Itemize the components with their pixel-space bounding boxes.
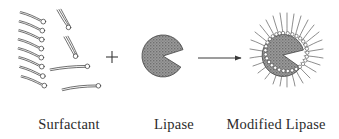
reaction-scheme-figure: Surfactant Lipase Modified Lipase	[0, 0, 339, 139]
surfactant-free-bottom	[62, 84, 101, 91]
lipase-shape	[142, 35, 183, 77]
modified-lipase-shape	[250, 13, 323, 87]
label-modified-lipase: Modified Lipase	[214, 114, 338, 134]
label-surfactant: Surfactant	[4, 114, 134, 134]
surfactant-free-lower	[50, 64, 90, 71]
surfactant-group	[18, 9, 101, 90]
surfactant-free-upper	[57, 9, 71, 30]
lipase-body	[142, 35, 183, 77]
label-lipase: Lipase	[128, 114, 220, 134]
caption-row: Surfactant Lipase Modified Lipase	[0, 114, 339, 139]
plus-operator	[106, 51, 118, 63]
surfactant-free-middle	[64, 36, 78, 58]
surfactant-stack	[18, 12, 47, 88]
